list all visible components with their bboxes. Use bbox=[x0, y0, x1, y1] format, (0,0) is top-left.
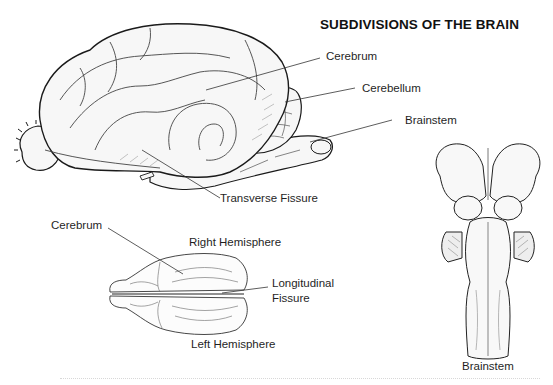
label-cerebrum-dorsal: Cerebrum bbox=[51, 219, 102, 233]
label-brainstem-lateral: Brainstem bbox=[405, 114, 457, 128]
left-hemisphere-shape bbox=[110, 296, 248, 335]
right-hemisphere-shape bbox=[110, 254, 248, 293]
cerebrum-shape bbox=[39, 24, 288, 178]
ventral-brainstem-view bbox=[436, 144, 540, 359]
label-longitudinal-fissure-line1: Longitudinal bbox=[272, 277, 334, 291]
label-transverse-fissure: Transverse Fissure bbox=[220, 192, 318, 206]
label-longitudinal-fissure-line2: Fissure bbox=[272, 292, 310, 306]
label-cerebellum: Cerebellum bbox=[362, 82, 421, 96]
label-cerebrum-lateral: Cerebrum bbox=[326, 50, 377, 64]
label-left-hemisphere: Left Hemisphere bbox=[191, 338, 275, 352]
label-right-hemisphere: Right Hemisphere bbox=[189, 236, 281, 250]
dorsal-brain-view bbox=[110, 254, 248, 335]
label-brainstem-caption: Brainstem bbox=[462, 360, 514, 374]
cropped-footer-text bbox=[60, 378, 540, 383]
lateral-brain-view bbox=[14, 24, 332, 190]
